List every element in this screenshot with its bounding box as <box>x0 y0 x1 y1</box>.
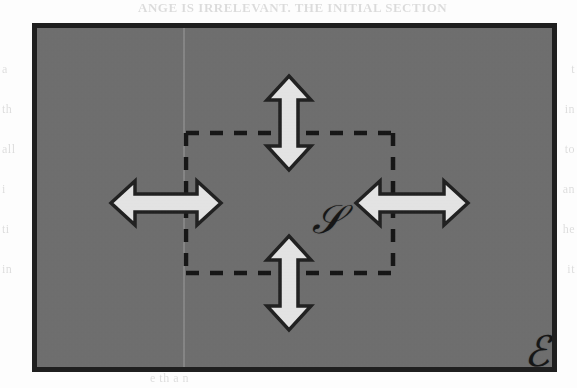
bleedthrough-text-right: he <box>563 222 575 237</box>
figure-page: ANGE IS IRRELEVANT. THE INITIAL SECTION … <box>0 0 577 388</box>
bleedthrough-text-right: it <box>567 262 575 277</box>
bleedthrough-text-left: all <box>2 142 16 157</box>
environment-label: ℰ <box>524 327 549 372</box>
bleedthrough-text-right: in <box>565 102 575 117</box>
bleedthrough-text-top: ANGE IS IRRELEVANT. THE INITIAL SECTION <box>138 0 447 16</box>
left-arrow <box>111 181 221 225</box>
bleedthrough-text-right: t <box>571 62 575 77</box>
bottom-arrow <box>267 236 311 330</box>
bleedthrough-text-left: i <box>2 182 6 197</box>
bleedthrough-text-right: to <box>565 142 575 157</box>
right-arrow <box>356 181 468 225</box>
bleedthrough-text-left: ti <box>2 222 10 237</box>
bleedthrough-text-left: in <box>2 262 12 277</box>
bleedthrough-text-right: an <box>563 182 575 197</box>
top-arrow <box>267 76 311 170</box>
bleedthrough-text-bottom: e th a n <box>150 371 189 386</box>
environment-box: 𝒮 ℰ <box>32 23 557 372</box>
bleedthrough-text-left: a <box>2 62 8 77</box>
bleedthrough-text-left: th <box>2 102 12 117</box>
system-label: 𝒮 <box>292 196 362 243</box>
